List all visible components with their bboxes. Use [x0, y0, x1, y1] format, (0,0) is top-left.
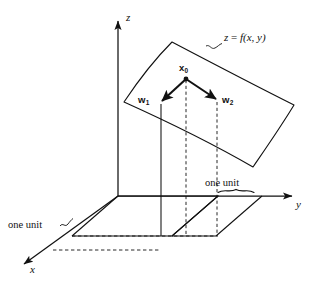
- diagram-canvas: [0, 0, 319, 282]
- base-plane-group: [53, 196, 262, 250]
- unit-label-right: one unit: [205, 178, 239, 189]
- vector-w2-label: w2: [222, 95, 233, 105]
- surface-equation-args: (x, y): [243, 31, 266, 43]
- point-x0-dot: [184, 77, 189, 82]
- point-x0-label: x0: [179, 63, 188, 73]
- unit-right-brace-group: [218, 190, 254, 193]
- surface-patch-outline: [124, 42, 294, 167]
- point-x0-subscript: 0: [185, 67, 189, 74]
- surface-diagram-figure: z y x z = f(x, y) x0 w1 w2 one unit one …: [0, 0, 319, 282]
- surface-leader-line-group: [206, 44, 222, 49]
- unit-left-leader: [60, 219, 73, 227]
- vector-w2-subscript: 2: [230, 99, 234, 106]
- z-axis-label: z: [126, 12, 130, 23]
- surface-label-leader: [206, 44, 222, 49]
- x-axis-label: x: [30, 264, 35, 275]
- point-x0-symbol: x: [179, 62, 184, 73]
- vector-w2-symbol: w: [222, 94, 229, 105]
- vector-w1-label: w1: [138, 95, 149, 105]
- base-unit-square-far-edge: [72, 196, 118, 236]
- base-unit-diagonal-near: [172, 196, 218, 236]
- y-axis-label: y: [296, 199, 301, 210]
- surface-group: [124, 42, 294, 167]
- vector-w1-symbol: w: [138, 94, 145, 105]
- unit-right-brace: [218, 190, 254, 193]
- surface-equation-eq: =: [228, 31, 240, 43]
- surface-equation-label: z = f(x, y): [224, 32, 266, 43]
- vector-w1-subscript: 1: [146, 99, 150, 106]
- base-plane-solid-edges: [72, 196, 218, 236]
- base-unit-diagonal-far: [216, 196, 262, 236]
- unit-left-leader-group: [60, 219, 73, 227]
- unit-label-left: one unit: [8, 220, 42, 231]
